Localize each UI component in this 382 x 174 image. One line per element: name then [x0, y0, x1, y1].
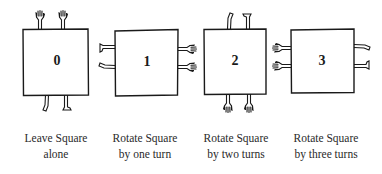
caption-2-line1: Rotate Square — [186, 130, 286, 146]
caption-1-line2: by one turn — [95, 146, 195, 162]
caption-1: Rotate Square by one turn — [95, 130, 195, 162]
foot-icon — [43, 95, 49, 111]
caption-0-line2: alone — [6, 146, 106, 162]
foot-icon — [63, 95, 71, 110]
hand-icon — [59, 11, 68, 30]
square-number-1: 1 — [137, 55, 157, 69]
hand-icon — [36, 11, 45, 30]
square-number-0: 0 — [47, 54, 67, 68]
rotation-diagram: 0 1 2 3 — [0, 0, 382, 120]
caption-3: Rotate Square by three turns — [276, 130, 376, 162]
caption-3-line1: Rotate Square — [276, 130, 376, 146]
caption-2: Rotate Square by two turns — [186, 130, 286, 162]
square-number-3: 3 — [312, 54, 332, 68]
caption-3-line2: by three turns — [276, 146, 376, 162]
caption-0-line1: Leave Square — [6, 130, 106, 146]
caption-2-line2: by two turns — [186, 146, 286, 162]
square-number-2: 2 — [225, 54, 245, 68]
caption-1-line1: Rotate Square — [95, 130, 195, 146]
caption-0: Leave Square alone — [6, 130, 106, 162]
